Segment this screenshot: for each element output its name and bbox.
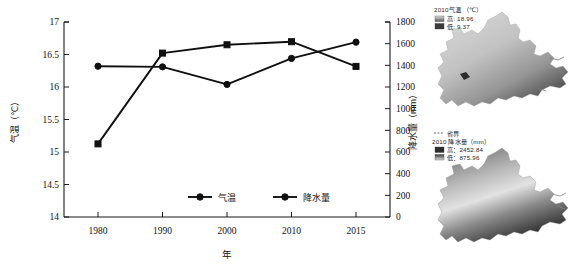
data-point (95, 141, 101, 147)
left-tick-label: 14 (50, 212, 60, 222)
data-point (159, 64, 165, 70)
series-path-0 (98, 42, 356, 84)
right-tick-label: 0 (396, 212, 401, 222)
precipitation-map-title: 2010 降水量（mm） (432, 138, 490, 146)
right-tick-label: 1800 (396, 17, 415, 27)
chongqing-precipitation-map: 省界 2010 降水量（mm） 高：2452.84 低：875.96 (432, 130, 568, 243)
data-point (160, 50, 166, 56)
maps-panel: 2010气温 （℃） 高: 18.96 低: 9.37 省界 2010 降水量（… (430, 0, 579, 273)
precipitation-low-label: 低：875.96 (447, 154, 480, 162)
right-tick-label: 1400 (396, 61, 415, 71)
chart-legend: 气温 降水量 (188, 192, 330, 203)
legend-item-precipitation: 降水量 (273, 192, 330, 203)
series-group (95, 39, 359, 147)
x-axis-title: 年 (222, 249, 232, 260)
right-tick-label: 1600 (396, 39, 415, 49)
precipitation-low-swatch (435, 155, 444, 161)
data-point (289, 39, 295, 45)
legend-label-precipitation: 降水量 (303, 192, 330, 203)
x-axis-tick-labels: 19801990200020102015 (89, 226, 366, 236)
figure-container: 1414.51515.51616.517 0200400600800100012… (0, 0, 579, 273)
x-tick-label: 2000 (218, 226, 237, 236)
line-chart: 1414.51515.51616.517 0200400600800100012… (0, 0, 430, 273)
left-tick-label: 15.5 (42, 115, 59, 125)
maps-svg: 2010气温 （℃） 高: 18.96 低: 9.37 省界 2010 降水量（… (430, 0, 579, 273)
data-point (288, 55, 294, 61)
series-path-1 (98, 42, 356, 144)
left-tick-label: 16.5 (42, 50, 59, 60)
precipitation-map-shape (438, 148, 568, 242)
temperature-low-swatch (435, 24, 444, 30)
legend-marker-temperature (197, 194, 203, 200)
data-point (224, 81, 230, 87)
x-tick-label: 1990 (153, 226, 172, 236)
left-tick-label: 14.5 (42, 180, 59, 190)
left-axis-title: 气温（℃） (9, 97, 20, 143)
temperature-high-swatch (435, 16, 444, 22)
left-axis: 1414.51515.51616.517 (42, 17, 69, 222)
left-axis-ticks (64, 22, 69, 217)
chongqing-temperature-map: 2010气温 （℃） 高: 18.96 低: 9.37 (434, 6, 568, 106)
chart-svg: 1414.51515.51616.517 0200400600800100012… (0, 0, 430, 273)
right-tick-label: 400 (396, 169, 411, 179)
legend-label-temperature: 气温 (218, 192, 236, 203)
x-axis: 19801990200020102015 (64, 212, 390, 236)
x-tick-label: 1980 (89, 226, 108, 236)
left-tick-label: 16 (50, 82, 60, 92)
precipitation-map-legend: 省界 2010 降水量（mm） 高：2452.84 低：875.96 (432, 130, 490, 162)
x-tick-label: 2015 (347, 226, 366, 236)
left-axis-tick-labels: 1414.51515.51616.517 (42, 17, 59, 222)
left-tick-label: 17 (50, 17, 60, 27)
right-axis-ticks (385, 22, 390, 217)
legend-marker-precipitation (282, 194, 288, 200)
x-tick-label: 2010 (282, 226, 301, 236)
data-point (353, 39, 359, 45)
precipitation-high-swatch (435, 147, 444, 153)
left-tick-label: 15 (50, 147, 60, 157)
right-tick-label: 200 (396, 191, 411, 201)
temperature-low-label: 低: 9.37 (447, 23, 470, 31)
data-point (353, 63, 359, 69)
right-axis-title: 降水量（mm） (407, 90, 418, 150)
data-point (224, 42, 230, 48)
legend-item-temperature: 气温 (188, 192, 236, 203)
x-axis-ticks (98, 212, 356, 217)
temperature-map-title: 2010气温 （℃） (434, 6, 482, 14)
temperature-map-legend: 2010气温 （℃） 高: 18.96 低: 9.37 (434, 6, 482, 31)
data-point (95, 63, 101, 69)
series-precipitation (95, 39, 359, 147)
province-boundary-label: 省界 (447, 130, 459, 138)
